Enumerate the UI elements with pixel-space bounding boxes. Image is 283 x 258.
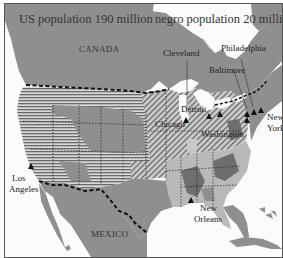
us-population-title: US population 190 million bbox=[19, 13, 153, 26]
detroit-label: Detroit bbox=[181, 105, 207, 114]
new-york-label-line1: New bbox=[267, 113, 283, 122]
negro-population-title: negro population 20 million bbox=[155, 13, 283, 26]
new-york-label-line2: York bbox=[267, 124, 283, 133]
los-angeles-label-line2: Angeles bbox=[9, 185, 39, 194]
los-angeles-label-line1: Los bbox=[12, 174, 26, 183]
map-frame: US population 190 million negro populati… bbox=[4, 3, 283, 258]
cleveland-label: Cleveland bbox=[163, 49, 200, 58]
baltimore-label: Baltimore bbox=[209, 66, 245, 75]
cuba bbox=[229, 237, 282, 249]
philadelphia-label: Philadelphia bbox=[221, 44, 266, 53]
new-orleans-label-line1: New bbox=[200, 204, 217, 213]
washington-label: Washington bbox=[201, 130, 244, 139]
mexico-label: MEXICO bbox=[91, 230, 128, 239]
canada-label: CANADA bbox=[79, 45, 119, 54]
new-orleans-label-line2: Orleans bbox=[194, 215, 222, 224]
chicago-label: Chicago bbox=[155, 120, 185, 129]
